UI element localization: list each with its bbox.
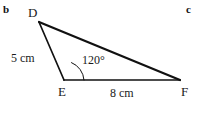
- vertex-label-f: F: [181, 85, 188, 98]
- angle-measure-label-e: 120°: [82, 54, 105, 66]
- geometry-figure: b c D E F 5 cm 8 cm 120°: [0, 0, 202, 114]
- side-length-label-ef: 8 cm: [110, 87, 134, 99]
- part-label-b: b: [3, 4, 9, 15]
- side-length-label-de: 5 cm: [11, 52, 35, 64]
- part-label-c: c: [186, 4, 191, 15]
- vertex-label-e: E: [58, 85, 66, 98]
- vertex-label-d: D: [28, 6, 37, 19]
